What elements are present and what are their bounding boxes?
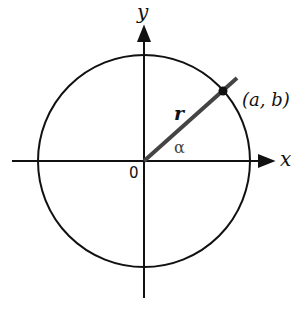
y-axis-label: y	[137, 0, 148, 24]
point-ab	[219, 87, 228, 96]
diagram-canvas	[0, 0, 294, 312]
angle-label: α	[174, 138, 185, 157]
origin-label: 0	[129, 164, 139, 182]
point-label: (a, b)	[242, 89, 290, 110]
radius-label: r	[174, 102, 184, 124]
x-axis-label: x	[280, 147, 291, 171]
